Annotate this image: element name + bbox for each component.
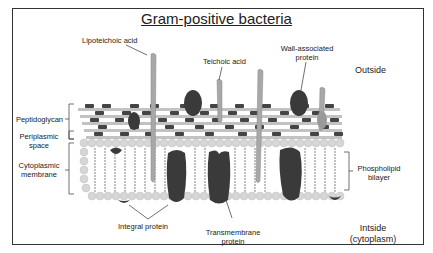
label-periplasmic-space: Periplasmic space <box>14 132 64 150</box>
label-transmembrane-protein: Transmembrane protein <box>204 228 262 246</box>
label-phospholipid-bilayer: Phospholipid bilayer <box>354 164 404 182</box>
label-inside-line2: (cytoplasm) <box>342 234 404 245</box>
label-periplasmic-line1: Periplasmic <box>14 132 64 141</box>
label-wall-associated-protein: Wall-associated protein <box>279 44 335 62</box>
label-transmembrane-line1: Transmembrane <box>204 228 262 237</box>
label-cytoplasmic-membrane: Cytoplasmic membrane <box>14 161 64 179</box>
label-lipoteichoic-acid: Lipoteichoic acid <box>82 36 137 45</box>
label-peptidoglycan: Peptidoglycan <box>14 115 63 124</box>
label-integral-protein: Integral protein <box>118 222 168 231</box>
label-wall-associated-line1: Wall-associated <box>279 44 335 53</box>
label-phospholipid-line1: Phospholipid <box>354 164 404 173</box>
label-transmembrane-line2: protein <box>204 237 262 246</box>
label-outside: Outside <box>355 65 386 76</box>
label-inside-cytoplasm: Intside (cytoplasm) <box>342 223 404 245</box>
label-cytoplasmic-line1: Cytoplasmic <box>14 161 64 170</box>
label-phospholipid-line2: bilayer <box>354 173 404 182</box>
label-periplasmic-line2: space <box>14 141 64 150</box>
label-cytoplasmic-line2: membrane <box>14 170 64 179</box>
cell-wall-illustration <box>0 0 433 253</box>
label-wall-associated-line2: protein <box>279 53 335 62</box>
label-teichoic-acid: Teichoic acid <box>203 57 246 66</box>
label-inside-line1: Intside <box>342 223 404 234</box>
